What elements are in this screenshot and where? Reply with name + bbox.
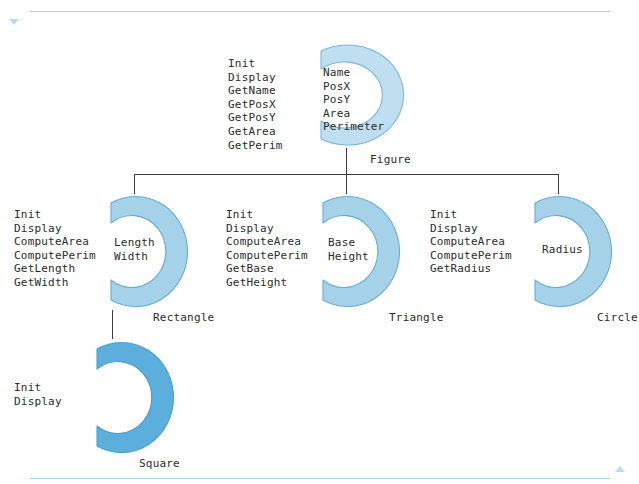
class-attributes-triangle: Base Height <box>328 236 369 263</box>
connector-bus-to-circle <box>558 174 559 194</box>
connector-bus-to-triangle <box>346 174 347 194</box>
bottom-divider-rule <box>30 478 610 479</box>
class-attributes-rectangle: Length Width <box>114 236 155 263</box>
class-node-figure[interactable]: Name PosX PosY Area Perimeter <box>285 42 408 148</box>
class-node-circle[interactable]: Radius <box>502 193 616 310</box>
class-name-square: Square <box>139 457 180 470</box>
class-name-figure: Figure <box>370 153 411 166</box>
top-divider-rule <box>30 11 610 12</box>
class-methods-triangle: Init Display ComputeArea ComputePerim Ge… <box>226 208 308 290</box>
connector-rectangle-to-square <box>112 310 113 339</box>
class-name-circle: Circle <box>597 311 638 324</box>
collapse-down-triangle-icon[interactable] <box>9 19 19 25</box>
class-node-square[interactable] <box>64 339 178 456</box>
class-methods-figure: Init Display GetName GetPosX GetPosY Get… <box>228 57 283 152</box>
diagram-page: Name PosX PosY Area Perimeter Init Displ… <box>0 0 639 484</box>
class-attributes-figure: Name PosX PosY Area Perimeter <box>323 66 384 134</box>
class-methods-rectangle: Init Display ComputeArea ComputePerim Ge… <box>14 208 96 290</box>
class-name-rectangle: Rectangle <box>153 311 214 324</box>
class-attributes-circle: Radius <box>542 243 583 257</box>
connector-figure-to-bus <box>346 148 347 174</box>
class-methods-square: Init Display <box>14 381 62 408</box>
class-name-triangle: Triangle <box>389 311 444 324</box>
class-methods-circle: Init Display ComputeArea ComputePerim Ge… <box>430 208 512 276</box>
connector-bus-to-rectangle <box>134 174 135 194</box>
ring-shape-square <box>64 339 178 456</box>
collapse-up-triangle-icon[interactable] <box>615 466 625 472</box>
